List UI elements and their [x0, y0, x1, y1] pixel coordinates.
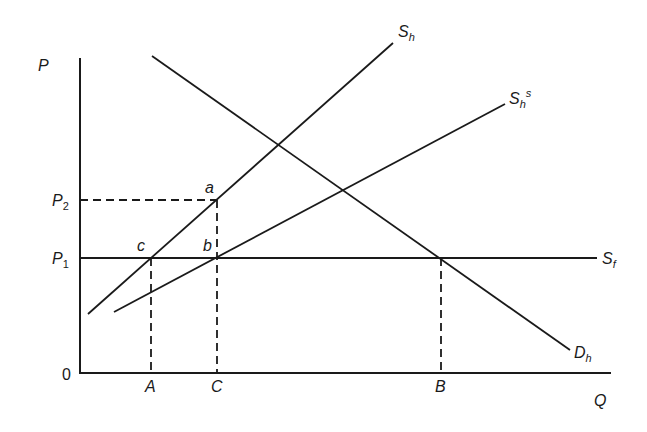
subsidized-supply-label: Shs — [509, 87, 532, 110]
quantity-label-a: A — [144, 378, 156, 395]
point-label-b: b — [203, 237, 212, 254]
origin-label: 0 — [62, 366, 71, 383]
quantity-label-b: B — [435, 378, 446, 395]
point-label-c: c — [137, 237, 145, 254]
home-supply-label: Sh — [398, 23, 415, 43]
home-demand-label: Dh — [574, 344, 592, 364]
subsidized-supply-line — [114, 104, 505, 312]
point-label-a: a — [205, 179, 214, 196]
home-supply-line — [88, 43, 393, 314]
foreign-supply-label: Sf — [602, 250, 617, 270]
x-axis-label: Q — [594, 392, 606, 409]
y-axis-label: P — [38, 57, 49, 74]
price-label-p2: P2 — [52, 192, 69, 212]
price-label-p1: P1 — [52, 250, 69, 270]
home-demand-line — [152, 56, 570, 350]
quantity-label-c: C — [211, 378, 223, 395]
supply-demand-diagram: P Q 0 P2 P1 A C B a b c Sh Shs Sf Dh — [0, 0, 647, 432]
